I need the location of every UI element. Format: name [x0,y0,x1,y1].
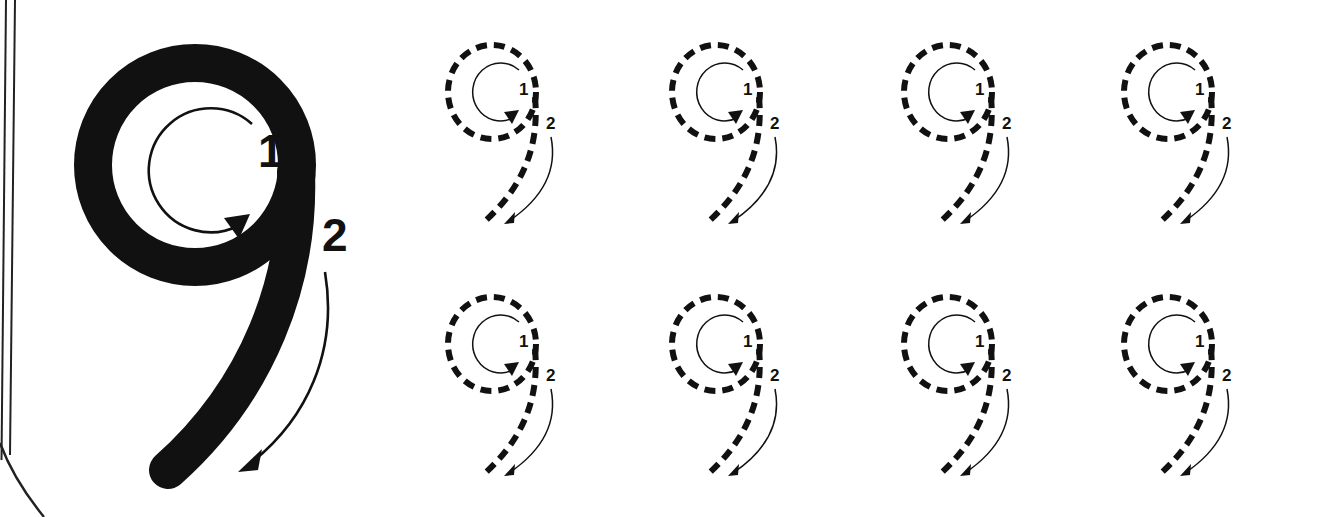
practice-item-r2c4[interactable] [0,0,1331,517]
practice-r2c4-label-1: 1 [1195,333,1204,350]
worksheet-page: 1 2 1 2 1 2 1 2 1 [0,0,1331,517]
practice-r2c4-label-2: 2 [1222,367,1231,384]
stroke2-arrow-path [1185,389,1229,473]
stroke2-arrowhead [1180,464,1191,476]
stroke1-arrowhead [1180,362,1195,376]
